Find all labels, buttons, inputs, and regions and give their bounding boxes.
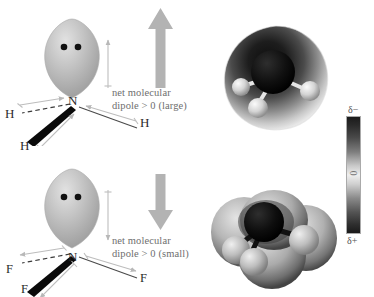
nf3-fluorine-sphere: [289, 225, 319, 255]
nh3-terminal-atom-label-right: H: [140, 116, 149, 129]
nh3-net-dipole-arrow: [146, 6, 176, 90]
nf3-nitrogen-sphere: [244, 202, 284, 242]
nh3-hydrogen-sphere: [248, 98, 268, 118]
nf3-terminal-atom-label-left: F: [6, 263, 13, 276]
lone-pair-dot: [61, 194, 68, 201]
bond-dashed-left: [22, 254, 70, 263]
nh3-caption-line1: net molecular: [112, 87, 187, 100]
nf3-electrostatic-potential-surface: [210, 170, 340, 295]
nh3-lone-pair-dipole-arrow: [105, 40, 112, 88]
nf3-caption-line1: net molecular: [112, 235, 189, 248]
nh3-caption: net molecular dipole > 0 (large): [112, 87, 187, 112]
nh3-terminal-atom-label-bottom: H: [20, 139, 29, 152]
lone-pair-dot: [61, 44, 68, 51]
nf3-terminal-atom-label-right: F: [140, 272, 147, 285]
bond-plain-right: [79, 257, 137, 278]
nh3-electrostatic-potential-surface: [215, 12, 337, 142]
bond-wedge-bottom: [27, 106, 76, 146]
nh3-caption-line2: dipole > 0 (large): [112, 100, 187, 113]
scale-label-zero: 0: [349, 166, 359, 180]
nh3-lone-pair-lobe: [45, 19, 100, 98]
nh3-lewis-structure: [0, 6, 155, 146]
nh3-hydrogen-sphere: [300, 81, 320, 101]
scale-label-positive: δ+: [347, 235, 357, 246]
nf3-bonds: [22, 254, 137, 297]
lone-pair-dot: [75, 44, 82, 51]
nf3-caption: net molecular dipole > 0 (small): [112, 235, 189, 260]
bond-dashed-left: [22, 104, 70, 113]
nh3-central-atom-label: N: [68, 94, 77, 107]
nf3-net-dipole-arrow: [146, 172, 176, 232]
nf3-central-atom-label: N: [68, 250, 77, 263]
nf3-lone-pair-lobe: [45, 169, 100, 248]
electrostatic-potential-scale: δ− 0 δ+: [344, 116, 364, 234]
dipole-comparison-figure: N H H H net molecular dipole > 0 (large): [0, 0, 374, 297]
nf3-fluorine-sphere: [240, 248, 268, 276]
nf3-caption-line2: dipole > 0 (small): [112, 248, 189, 261]
scale-label-negative: δ−: [348, 104, 358, 115]
nh3-nitrogen-sphere: [251, 50, 295, 94]
nh3-hydrogen-sphere: [232, 78, 250, 96]
nf3-lone-pair-dipole-arrow: [105, 190, 112, 240]
lone-pair-dot: [75, 194, 82, 201]
nf3-lewis-structure: [0, 160, 155, 297]
nh3-terminal-atom-label-left: H: [5, 107, 14, 120]
nf3-terminal-atom-label-bottom: F: [21, 283, 28, 296]
